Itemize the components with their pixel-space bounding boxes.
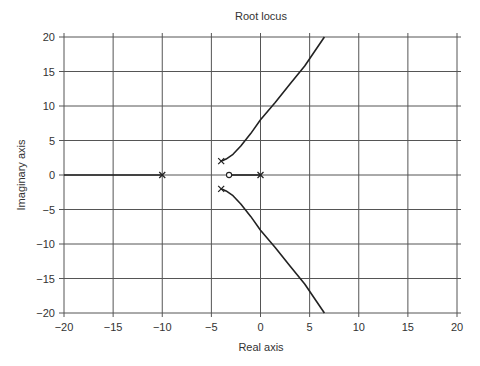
- y-tick-label: 5: [49, 135, 55, 147]
- y-tick-label: 0: [49, 169, 55, 181]
- x-tick-label: −20: [55, 321, 74, 333]
- axis-ticks: −20−15−10−505101520−20−15−10−505101520: [36, 31, 463, 333]
- y-tick-label: −5: [42, 204, 55, 216]
- lower-branch: [221, 189, 324, 313]
- x-tick-label: 15: [402, 321, 414, 333]
- y-tick-label: −20: [36, 307, 55, 319]
- root-locus-chart: −20−15−10−505101520−20−15−10−505101520 R…: [0, 0, 480, 366]
- x-tick-label: 20: [451, 321, 463, 333]
- y-tick-label: 10: [43, 100, 55, 112]
- pole-marker-icon: [218, 186, 224, 192]
- chart-title: Root locus: [235, 10, 287, 22]
- y-tick-label: 15: [43, 66, 55, 78]
- x-tick-label: 5: [307, 321, 313, 333]
- y-tick-label: 20: [43, 31, 55, 43]
- x-axis-label: Real axis: [238, 341, 284, 353]
- upper-branch: [221, 37, 324, 161]
- y-tick-label: −15: [36, 273, 55, 285]
- x-tick-label: −15: [104, 321, 123, 333]
- x-tick-label: 10: [353, 321, 365, 333]
- x-tick-label: −5: [205, 321, 218, 333]
- x-tick-label: −10: [153, 321, 172, 333]
- zero-marker-icon: [226, 172, 231, 177]
- pole-marker-icon: [218, 158, 224, 164]
- y-tick-label: −10: [36, 238, 55, 250]
- x-tick-label: 0: [257, 321, 263, 333]
- y-axis-label: Imaginary axis: [15, 139, 27, 210]
